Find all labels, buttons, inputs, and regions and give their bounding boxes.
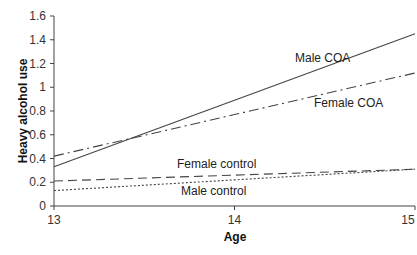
y-tick-label: 1	[39, 80, 46, 94]
y-axis: 00.20.40.60.811.21.41.6 Heavy alcohol us…	[16, 9, 54, 213]
y-tick-label: 0.2	[29, 175, 46, 189]
y-axis-title: Heavy alcohol use	[16, 58, 30, 163]
x-tick-label: 13	[47, 213, 61, 227]
y-tick-label: 0.6	[29, 128, 46, 142]
y-tick-label: 1.2	[29, 57, 46, 71]
x-axis-title: Age	[224, 230, 247, 244]
series-female-coa	[54, 73, 415, 156]
line-chart: 00.20.40.60.811.21.41.6 Heavy alcohol us…	[0, 0, 417, 255]
label-female-control: Female control	[177, 157, 256, 171]
x-tick-label: 15	[401, 213, 415, 227]
y-tick-label: 1.6	[29, 9, 46, 23]
y-tick-label: 0.8	[29, 104, 46, 118]
y-tick-label: 0	[39, 199, 46, 213]
y-tick-label: 1.4	[29, 33, 46, 47]
y-tick-label: 0.4	[29, 152, 46, 166]
label-male-coa: Male COA	[295, 51, 350, 65]
label-female-coa: Female COA	[314, 96, 383, 110]
x-tick-label: 14	[228, 213, 242, 227]
x-axis: 131415 Age	[47, 206, 415, 244]
label-male-control: Male control	[181, 184, 246, 198]
